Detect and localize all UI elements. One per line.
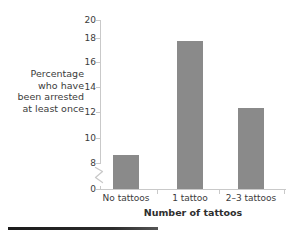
bar-1-tattoo bbox=[177, 41, 203, 189]
x-axis-tick-labels: No tattoos 1 tattoo 2–3 tattoos bbox=[0, 193, 292, 207]
x-tick-label-2-3-tattoos: 2–3 tattoos bbox=[226, 193, 277, 203]
bar-2-3-tattoos bbox=[238, 108, 264, 189]
x-tick-label-no-tattoos: No tattoos bbox=[103, 193, 150, 203]
bar-chart-figure: Percentage who have been arrested at lea… bbox=[0, 0, 292, 236]
x-axis-title: Number of tattoos bbox=[100, 207, 286, 218]
bar-no-tattoos bbox=[113, 155, 139, 189]
bottom-rule bbox=[8, 227, 158, 230]
x-axis-line bbox=[100, 189, 286, 190]
x-tick-label-1-tattoo: 1 tattoo bbox=[172, 193, 208, 203]
